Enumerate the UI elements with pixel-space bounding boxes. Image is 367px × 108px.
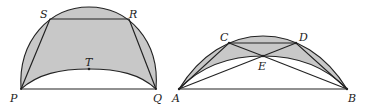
geometry-diagram: P Q S R T A B C D E <box>0 0 367 108</box>
label-A: A <box>171 92 180 105</box>
point-E <box>262 55 265 58</box>
point-P <box>20 88 22 90</box>
point-Q <box>155 88 157 90</box>
point-D <box>295 42 297 44</box>
label-E: E <box>257 60 266 73</box>
left-figure: P Q S R T <box>9 7 162 105</box>
label-S: S <box>40 8 48 21</box>
label-P: P <box>9 92 18 105</box>
label-C: C <box>220 31 229 44</box>
point-B <box>346 88 348 90</box>
label-B: B <box>347 92 356 105</box>
right-figure: A B C D E <box>171 31 356 105</box>
point-A <box>178 88 180 90</box>
label-R: R <box>128 8 137 21</box>
label-D: D <box>298 31 308 44</box>
label-Q: Q <box>153 92 162 105</box>
